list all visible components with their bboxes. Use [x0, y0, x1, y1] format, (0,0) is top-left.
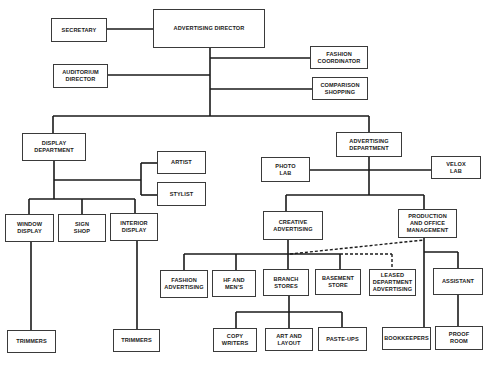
- node-interior-display: INTERIOR DISPLAY: [110, 213, 158, 241]
- node-comparison-shopping: COMPARISON SHOPPING: [312, 77, 368, 100]
- node-art-and-layout: ART AND LAYOUT: [265, 328, 313, 351]
- node-display-department: DISPLAY DEPARTMENT: [22, 133, 86, 161]
- node-window-display: WINDOW DISPLAY: [5, 214, 54, 242]
- node-bookkeepers: BOOKKEEPERS: [382, 327, 431, 350]
- node-leased-department-advertising: LEASED DEPARTMENT ADVERTISING: [369, 269, 416, 296]
- node-advertising-director: ADVERTISING DIRECTOR: [153, 9, 265, 48]
- node-artist: ARTIST: [157, 151, 206, 174]
- node-copy-writers: COPY WRITERS: [213, 328, 257, 352]
- node-creative-advertising: CREATIVE ADVERTISING: [263, 211, 323, 240]
- node-advertising-department: ADVERTISING DEPARTMENT: [336, 132, 402, 157]
- node-production-office-management: PRODUCTION AND OFFICE MANAGEMENT: [398, 209, 457, 238]
- node-photo-lab: PHOTO LAB: [261, 157, 310, 182]
- node-paste-ups: PASTE-UPS: [318, 327, 367, 351]
- node-stylist: STYLIST: [157, 182, 206, 206]
- node-fashion-advertising: FASHION ADVERTISING: [160, 270, 208, 298]
- node-secretary: SECRETARY: [51, 18, 107, 42]
- node-basement-store: BASEMENT STORE: [315, 269, 361, 295]
- node-trimmers-window: TRIMMERS: [7, 330, 56, 353]
- org-chart: SECRETARY ADVERTISING DIRECTOR FASHION C…: [0, 0, 498, 366]
- node-assistant: ASSISTANT: [433, 268, 483, 295]
- node-velox-lab: VELOX LAB: [431, 156, 481, 179]
- node-proof-room: PROOF ROOM: [435, 326, 483, 350]
- node-trimmers-interior: TRIMMERS: [113, 329, 160, 352]
- node-branch-stores: BRANCH STORES: [263, 269, 309, 296]
- connector-lines: [0, 0, 498, 366]
- node-sign-shop: SIGN SHOP: [58, 214, 106, 242]
- node-hf-and-mens: HF AND MEN'S: [212, 270, 256, 297]
- node-auditorium-director: AUDITORIUM DIRECTOR: [53, 64, 108, 88]
- node-fashion-coordinator: FASHION COORDINATOR: [310, 46, 368, 69]
